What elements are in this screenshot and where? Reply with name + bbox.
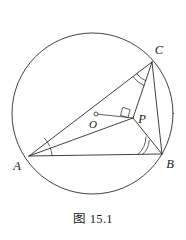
point-label-P: P [137, 112, 146, 126]
circumscribed-circle [12, 33, 173, 194]
segment-CP [133, 62, 152, 118]
vertex-label-A: A [12, 159, 21, 173]
center-point-marker-O [94, 112, 98, 116]
center-label-O: O [89, 118, 97, 130]
segment-AP [29, 118, 133, 156]
segment-OP [96, 114, 133, 118]
vertex-label-B: B [166, 157, 174, 171]
figure-caption-text: 图 15.1 [73, 212, 113, 226]
angle-arc-at-C-2 [136, 73, 145, 81]
right-angle-marker-at-P [121, 107, 131, 117]
geometry-canvas: A B C O P [0, 0, 186, 240]
geometry-figure: A B C O P 图 15.1 [0, 0, 186, 240]
angle-arc-at-A-1 [50, 148, 52, 156]
segment-CB [152, 62, 162, 154]
segment-AB [29, 154, 162, 156]
figure-caption: 图 15.1 [0, 208, 186, 227]
angle-arc-at-C-1 [133, 77, 144, 86]
vertex-label-C: C [155, 43, 164, 57]
